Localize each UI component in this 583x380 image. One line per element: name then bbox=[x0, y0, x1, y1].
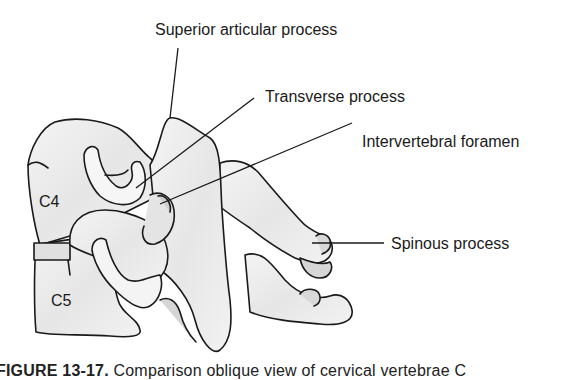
intervertebral-disc bbox=[34, 243, 70, 260]
label-superior-articular-process: Superior articular process bbox=[155, 22, 337, 38]
label-c4: C4 bbox=[39, 194, 59, 210]
label-intervertebral-foramen: Intervertebral foramen bbox=[362, 134, 519, 150]
label-spinous-process: Spinous process bbox=[391, 236, 509, 252]
label-transverse-process: Transverse process bbox=[265, 89, 405, 105]
c4-spinous-process bbox=[218, 161, 332, 263]
label-c5: C5 bbox=[51, 293, 71, 309]
c5-spinous-process bbox=[245, 254, 352, 325]
figure-caption: FIGURE 13-17. Comparison oblique view of… bbox=[0, 362, 466, 380]
figure-number: FIGURE 13-17. bbox=[0, 362, 109, 379]
figure-caption-text: Comparison oblique view of cervical vert… bbox=[114, 362, 467, 379]
leader-superior-articular bbox=[170, 48, 178, 118]
